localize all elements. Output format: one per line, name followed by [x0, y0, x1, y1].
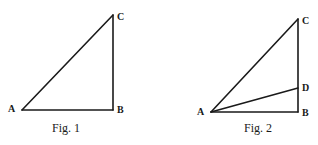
figure-caption: Fig. 2: [244, 121, 272, 135]
vertex-label-a: A: [8, 103, 16, 114]
figure-2: A B C D Fig. 2: [197, 15, 309, 135]
diagram-canvas: A B C Fig. 1 A B C D Fig. 2: [0, 0, 318, 145]
vertex-label-b: B: [302, 107, 309, 118]
segment-ad: [211, 88, 298, 112]
segment-ca: [211, 19, 298, 112]
figure-1: A B C Fig. 1: [8, 11, 124, 135]
vertex-label-c: C: [302, 15, 309, 26]
vertex-label-a: A: [197, 106, 205, 117]
segment-ca: [22, 15, 113, 110]
vertex-label-b: B: [117, 104, 124, 115]
vertex-label-c: C: [117, 11, 124, 22]
vertex-label-d: D: [302, 82, 309, 93]
figure-caption: Fig. 1: [52, 121, 80, 135]
